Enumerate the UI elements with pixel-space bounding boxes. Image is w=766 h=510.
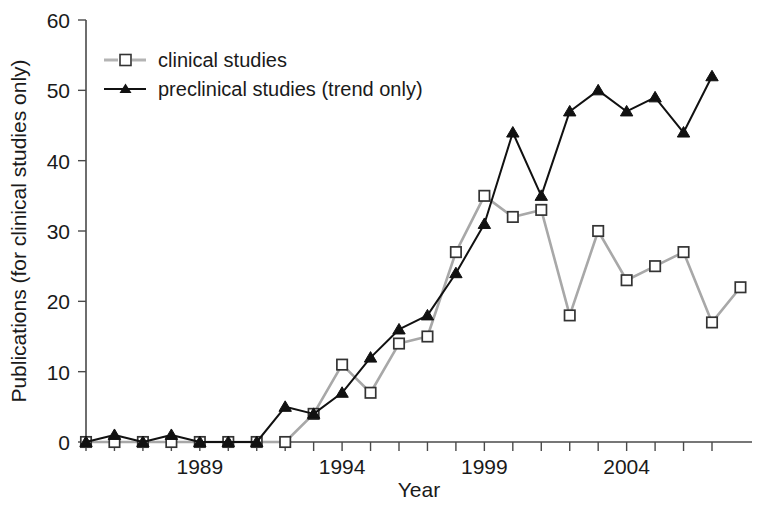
data-point-square [479,191,489,201]
legend-label-clinical: clinical studies [158,49,287,71]
data-point-square [678,247,688,257]
data-point-square [650,261,660,271]
data-point-square [422,331,432,341]
chart-legend: clinical studies preclinical studies (tr… [104,49,423,100]
data-point-triangle [421,309,433,320]
x-tick-marks [86,442,712,451]
publications-line-chart: 0102030405060 1989199419992004 Publicati… [0,0,766,510]
data-point-square [621,275,631,285]
series-clinical-studies [81,191,746,448]
data-point-triangle [478,218,490,229]
data-point-triangle [535,190,547,201]
data-point-triangle [393,323,405,334]
y-axis-title: Publications (for clinical studies only) [7,59,30,402]
x-axis-title: Year [398,478,440,501]
legend-entry-clinical-studies: clinical studies [104,49,287,71]
y-tick-label: 40 [47,150,70,173]
data-point-triangle [108,429,120,440]
data-point-triangle [507,127,519,138]
series-line [86,196,740,442]
x-tick-label: 1994 [319,455,366,478]
y-tick-label: 50 [47,79,70,102]
data-point-square [451,247,461,257]
y-axis: 0102030405060 [47,9,86,454]
y-tick-label: 30 [47,220,70,243]
legend-marker-open-square-icon [120,55,131,66]
data-point-triangle [165,429,177,440]
data-point-square [735,282,745,292]
data-point-square [365,388,375,398]
series-line [86,76,712,442]
data-point-square [565,310,575,320]
series-preclinical-studies-trend-only- [80,70,718,446]
y-tick-labels: 0102030405060 [47,9,70,454]
y-tick-label: 20 [47,290,70,313]
data-point-square [337,359,347,369]
x-tick-label: 1999 [461,455,508,478]
data-point-triangle [649,91,661,102]
x-axis: 1989199419992004 [86,442,752,478]
data-series-layer [80,70,746,447]
data-point-triangle [279,401,291,412]
legend-entry-preclinical-studies: preclinical studies (trend only) [104,78,423,100]
data-point-square [280,437,290,447]
data-point-triangle [592,84,604,95]
legend-label-preclinical: preclinical studies (trend only) [158,78,423,100]
data-point-square [593,226,603,236]
x-tick-label: 2004 [603,455,650,478]
x-tick-labels: 1989199419992004 [176,455,650,478]
y-tick-label: 10 [47,361,70,384]
x-tick-label: 1989 [176,455,223,478]
y-tick-label: 60 [47,9,70,32]
data-point-square [707,317,717,327]
data-point-square [394,338,404,348]
y-tick-label: 0 [58,431,70,454]
data-point-triangle [706,70,718,81]
data-point-square [508,212,518,222]
data-point-square [536,205,546,215]
y-tick-marks [78,20,86,442]
chart-container: 0102030405060 1989199419992004 Publicati… [0,0,766,510]
